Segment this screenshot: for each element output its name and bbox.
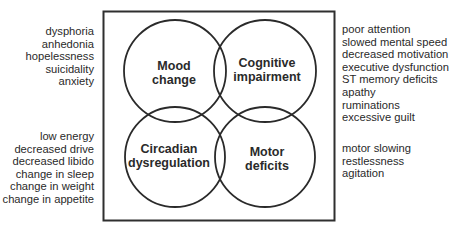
cognitive-symptom-list: poor attention slowed mental speed decre…	[342, 23, 449, 124]
mood-label-line1: Mood	[157, 59, 190, 73]
symptom-item: dysphoria	[26, 25, 94, 38]
symptom-item: hopelessness	[26, 50, 94, 63]
symptom-item: ruminations	[342, 99, 449, 112]
symptom-item: slowed mental speed	[342, 36, 449, 49]
symptom-item: executive dysfunction	[342, 61, 449, 74]
symptom-item: agitation	[342, 167, 411, 180]
mood-symptom-list: dysphoria anhedonia hopelessness suicida…	[26, 25, 94, 88]
symptom-item: apathy	[342, 86, 449, 99]
symptom-item: restlessness	[342, 155, 411, 168]
symptom-item: anhedonia	[26, 38, 94, 51]
symptom-item: excessive guilt	[342, 111, 449, 124]
symptom-item: decreased libido	[3, 155, 94, 168]
symptom-item: change in weight	[3, 180, 94, 193]
symptom-item: change in sleep	[3, 168, 94, 181]
symptom-item: low energy	[3, 130, 94, 143]
motor-symptom-list: motor slowing restlessness agitation	[342, 142, 411, 180]
symptom-item: poor attention	[342, 23, 449, 36]
cognitive-label-line1: Cognitive	[239, 56, 296, 70]
symptom-item: suicidality	[26, 63, 94, 76]
frame-box	[104, 12, 335, 221]
symptom-item: anxiety	[26, 75, 94, 88]
symptom-item: decreased drive	[3, 143, 94, 156]
motor-label-line1: Motor	[250, 145, 285, 159]
symptom-item: decreased motivation	[342, 48, 449, 61]
mood-label-line2: change	[152, 73, 196, 87]
circadian-label-line1: Circadian	[141, 142, 198, 156]
symptom-item: motor slowing	[342, 142, 411, 155]
circadian-label-line2: dysregulation	[128, 156, 210, 170]
symptom-item: change in appetite	[3, 193, 94, 206]
cognitive-label-line2: impairment	[233, 70, 301, 84]
circadian-symptom-list: low energy decreased drive decreased lib…	[3, 130, 94, 206]
motor-label-line2: deficits	[245, 159, 289, 173]
symptom-item: ST memory deficits	[342, 73, 449, 86]
